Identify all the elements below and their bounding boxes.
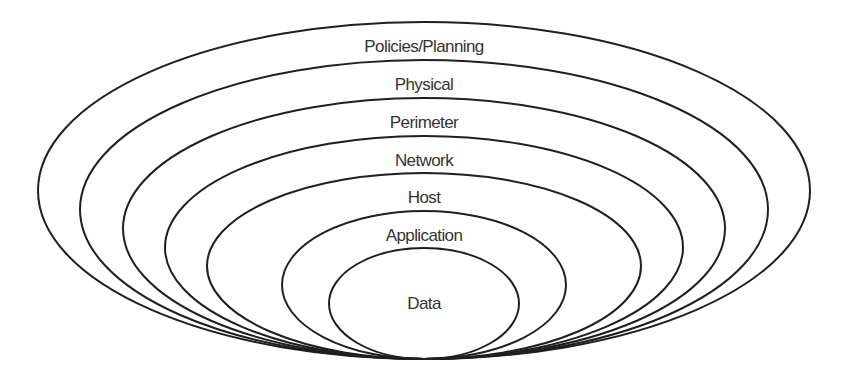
label-network: Network <box>395 151 454 170</box>
label-policies-planning: Policies/Planning <box>364 37 483 56</box>
ring-physical <box>80 60 768 359</box>
layer-application: Application <box>282 211 566 359</box>
layer-host: Host <box>207 173 641 359</box>
defense-in-depth-diagram: Policies/Planning Physical Perimeter Net… <box>0 0 843 375</box>
layer-data: Data <box>329 248 519 359</box>
layer-physical: Physical <box>80 60 768 359</box>
label-data: Data <box>407 294 442 313</box>
label-application: Application <box>386 226 463 245</box>
label-perimeter: Perimeter <box>390 113 459 132</box>
label-host: Host <box>408 188 441 207</box>
label-physical: Physical <box>395 75 454 94</box>
